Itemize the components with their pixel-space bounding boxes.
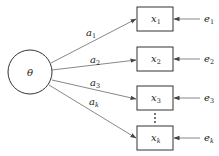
error-label-k: ek bbox=[204, 132, 214, 145]
error-label-3: e3 bbox=[204, 92, 214, 105]
latent-node-theta: θ bbox=[8, 50, 52, 94]
latent-label: θ bbox=[27, 67, 33, 78]
indicator-node-2: x2 bbox=[137, 47, 173, 71]
loading-label-k: ak bbox=[89, 96, 99, 109]
factor-model-diagram: θ a1 a2 a3 ak x1 x2 x3 xk e1 bbox=[0, 0, 219, 156]
loading-arrow-k bbox=[49, 85, 136, 138]
error-label-1: e1 bbox=[204, 13, 214, 26]
error-arrows bbox=[174, 19, 200, 138]
error-label-2: e2 bbox=[204, 53, 214, 66]
indicator-node-3: x3 bbox=[137, 86, 173, 110]
loading-label-1: a1 bbox=[86, 27, 96, 40]
indicator-node-1: x1 bbox=[137, 7, 173, 31]
loading-label-3: a3 bbox=[90, 77, 100, 90]
ellipsis-dots bbox=[154, 113, 156, 123]
indicator-node-k: xk bbox=[137, 126, 173, 150]
